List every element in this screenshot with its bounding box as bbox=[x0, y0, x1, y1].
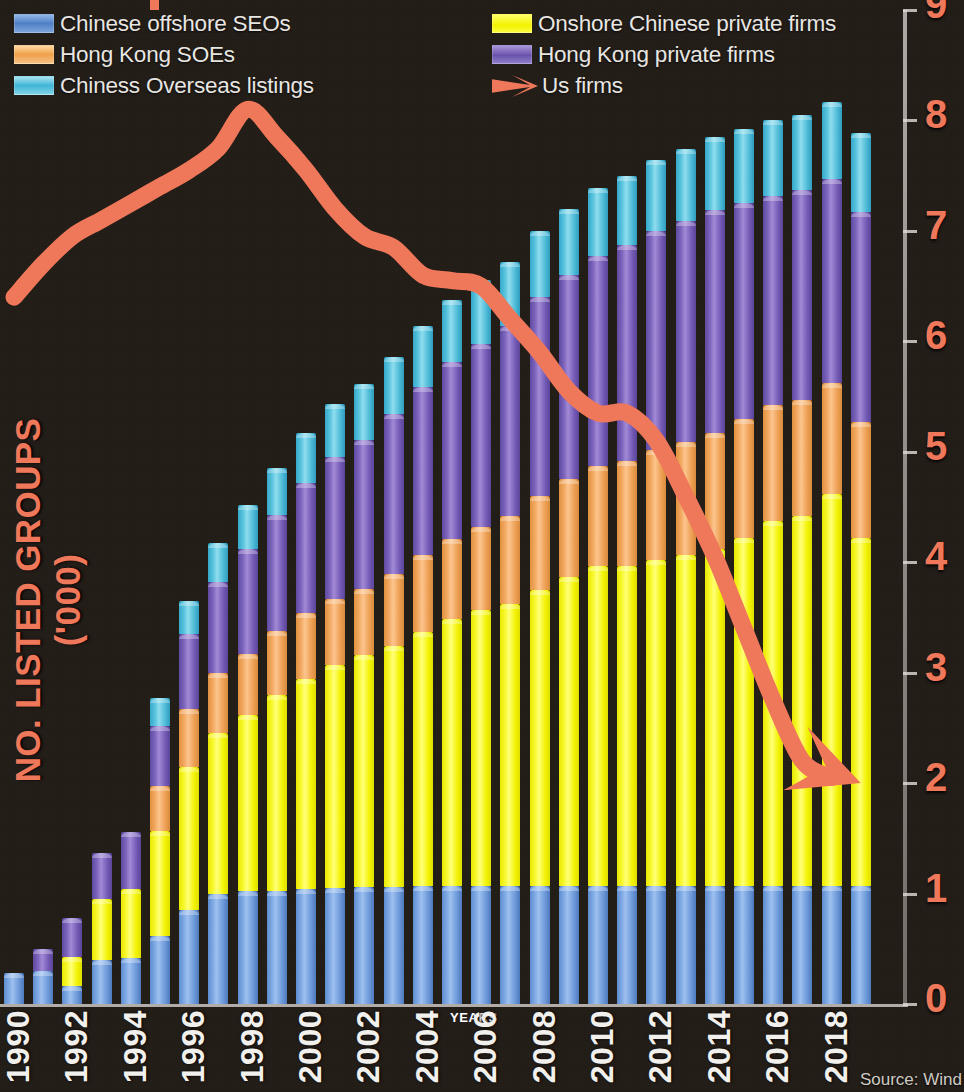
bar-segment bbox=[617, 461, 637, 566]
bar-segment-highlight bbox=[588, 256, 608, 261]
bar-segment-highlight bbox=[588, 466, 608, 471]
arrow-marker-icon bbox=[492, 74, 538, 98]
bar-segment-highlight bbox=[413, 555, 433, 560]
x-axis-tick-label: 1992 bbox=[58, 1010, 95, 1083]
legend-swatch-blue bbox=[14, 14, 54, 33]
bar-column bbox=[62, 918, 82, 1004]
bar-segment bbox=[822, 179, 842, 383]
bar-segment bbox=[384, 887, 404, 1004]
bar-segment-highlight bbox=[705, 210, 725, 215]
bar-segment bbox=[150, 831, 170, 936]
bar-segment bbox=[500, 326, 520, 516]
bar-segment-highlight bbox=[559, 209, 579, 214]
bar-segment-highlight bbox=[559, 577, 579, 582]
bar-segment-highlight bbox=[150, 726, 170, 731]
bar-column bbox=[792, 115, 812, 1004]
legend-swatch-purple bbox=[492, 45, 532, 64]
bar-segment bbox=[442, 539, 462, 619]
bar-column bbox=[617, 176, 637, 1004]
bar-segment-highlight bbox=[676, 886, 696, 891]
bar-segment bbox=[62, 957, 82, 987]
bar-column bbox=[208, 543, 228, 1004]
legend-item-hong-kong-soes[interactable]: Hong Kong SOEs bbox=[14, 39, 314, 70]
legend-label: Onshore Chinese private firms bbox=[538, 11, 836, 37]
bar-segment bbox=[208, 582, 228, 673]
bar-segment-highlight bbox=[705, 549, 725, 554]
y-axis-tick-label: 0 bbox=[925, 976, 947, 1021]
bar-segment bbox=[646, 231, 666, 450]
legend-label: Chinese offshore SEOs bbox=[60, 11, 291, 37]
bar-segment bbox=[763, 120, 783, 195]
bar-column bbox=[92, 853, 112, 1004]
bar-segment-highlight bbox=[267, 631, 287, 636]
y-axis-tick-label: 6 bbox=[925, 313, 947, 358]
bar-segment-highlight bbox=[617, 886, 637, 891]
bar-segment-highlight bbox=[676, 149, 696, 154]
bar-segment-highlight bbox=[208, 894, 228, 899]
bar-segment bbox=[471, 610, 491, 886]
bar-segment-highlight bbox=[500, 516, 520, 521]
bar-segment-highlight bbox=[92, 960, 112, 965]
bar-segment-highlight bbox=[354, 384, 374, 389]
x-axis-tick-label: 2008 bbox=[526, 1010, 563, 1083]
legend-item-us-firms[interactable]: Us firms bbox=[492, 70, 836, 101]
bar-segment bbox=[267, 515, 287, 631]
bar-segment bbox=[442, 619, 462, 886]
bar-segment-highlight bbox=[62, 918, 82, 923]
legend-swatch-yellow bbox=[492, 14, 532, 33]
bar-segment bbox=[734, 886, 754, 1004]
x-axis-tick-label: 1998 bbox=[234, 1010, 271, 1083]
bar-segment-highlight bbox=[208, 582, 228, 587]
bar-segment bbox=[384, 357, 404, 414]
bar-segment bbox=[238, 654, 258, 715]
bar-segment bbox=[676, 442, 696, 555]
bar-segment-highlight bbox=[851, 886, 871, 891]
bar-segment-highlight bbox=[179, 634, 199, 639]
bar-segment bbox=[296, 433, 316, 483]
bar-column bbox=[530, 231, 550, 1004]
bar-segment bbox=[354, 655, 374, 887]
bar-segment bbox=[559, 577, 579, 886]
x-axis-tick-label: 2010 bbox=[584, 1010, 621, 1083]
bar-segment-highlight bbox=[734, 886, 754, 891]
x-axis-tick-label: 1990 bbox=[0, 1010, 37, 1083]
bar-segment-highlight bbox=[62, 986, 82, 991]
bar-segment bbox=[413, 326, 433, 387]
y-axis-tick bbox=[903, 230, 917, 233]
bar-segment-highlight bbox=[617, 176, 637, 181]
bar-segment bbox=[384, 414, 404, 574]
bar-segment bbox=[413, 632, 433, 886]
bar-segment-highlight bbox=[617, 566, 637, 571]
bar-segment-highlight bbox=[267, 468, 287, 473]
legend-item-onshore-chinese-private-firms[interactable]: Onshore Chinese private firms bbox=[492, 8, 836, 39]
bar-segment bbox=[500, 604, 520, 886]
bar-segment-highlight bbox=[296, 483, 316, 488]
bar-column bbox=[354, 384, 374, 1004]
bar-segment-highlight bbox=[763, 405, 783, 410]
bar-segment bbox=[208, 894, 228, 1004]
bar-segment bbox=[763, 196, 783, 406]
y-axis-tick-label: 3 bbox=[925, 645, 947, 690]
bar-segment bbox=[150, 786, 170, 830]
bar-segment bbox=[354, 887, 374, 1004]
bar-segment bbox=[179, 634, 199, 709]
bar-segment bbox=[646, 160, 666, 231]
legend-item-chinese-offshore-seos[interactable]: Chinese offshore SEOs bbox=[14, 8, 314, 39]
y-axis-title: NO. LISTED GROUPS ('000) bbox=[8, 380, 88, 820]
bar-segment bbox=[238, 715, 258, 892]
bar-segment-highlight bbox=[734, 203, 754, 208]
bar-segment bbox=[676, 221, 696, 442]
bar-segment-highlight bbox=[676, 555, 696, 560]
legend-item-hong-kong-private-firms[interactable]: Hong Kong private firms bbox=[492, 39, 836, 70]
legend-item-chinese-overseas-listings[interactable]: Chiness Overseas listings bbox=[14, 70, 314, 101]
bar-segment bbox=[617, 566, 637, 886]
bar-segment bbox=[851, 422, 871, 538]
bar-segment bbox=[33, 949, 53, 971]
bar-segment bbox=[500, 886, 520, 1004]
bar-segment bbox=[413, 555, 433, 632]
bar-segment bbox=[792, 886, 812, 1004]
bar-segment-highlight bbox=[792, 190, 812, 195]
bar-segment-highlight bbox=[471, 610, 491, 615]
bar-segment bbox=[121, 889, 141, 957]
bar-segment-highlight bbox=[822, 886, 842, 891]
